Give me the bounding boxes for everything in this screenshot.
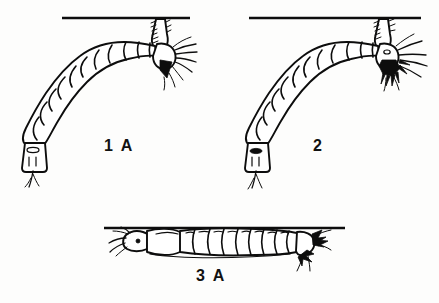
figure-label-1a: 1 A <box>104 137 134 155</box>
figure-2-anal-segment <box>245 143 270 172</box>
figure-label-2: 2 <box>313 137 324 155</box>
figure-3a-eye <box>136 239 140 243</box>
illustration-plate: 1 A 2 3 A <box>0 0 439 303</box>
figure-3a <box>109 227 331 271</box>
figure-2-body <box>246 42 380 145</box>
figure-label-3a: 3 A <box>196 267 226 285</box>
larvae-plate-drawing <box>0 0 439 303</box>
figure-1a <box>22 19 197 187</box>
figure-2 <box>245 19 427 189</box>
figure-2-caudal-setae <box>248 171 262 189</box>
figure-2-anal-spiracle <box>250 148 262 153</box>
figure-1a-body <box>23 42 157 145</box>
figure-1a-caudal-setae <box>25 171 39 187</box>
